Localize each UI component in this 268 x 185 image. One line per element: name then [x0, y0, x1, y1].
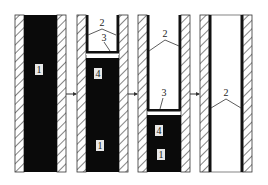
inner-wall-left: [86, 15, 89, 53]
right-wall: [243, 15, 252, 172]
label-2: 2: [163, 28, 168, 39]
label-3: 3: [162, 87, 167, 98]
interface-plug: [147, 109, 181, 112]
left-wall: [77, 15, 86, 172]
label-4: 4: [96, 68, 101, 79]
right-wall: [57, 15, 66, 172]
label-2: 2: [100, 17, 105, 28]
left-wall: [15, 15, 24, 172]
arrow-2: [128, 92, 138, 96]
arrow-1: [66, 92, 77, 96]
interface-plug: [86, 51, 119, 54]
left-wall: [200, 15, 209, 172]
fill-region: [24, 15, 57, 172]
inner-wall-right: [241, 15, 244, 172]
label-4: 4: [157, 125, 162, 136]
arrow-3: [190, 92, 200, 96]
inner-wall-right: [179, 15, 182, 111]
label-1: 1: [98, 140, 103, 151]
label-1: 1: [159, 149, 164, 160]
label-1: 1: [37, 64, 42, 75]
stage-1: 1: [15, 15, 66, 172]
process-diagram: 1 2 3 4 1 2 3: [0, 0, 268, 185]
inner-wall-left: [209, 15, 212, 172]
inner-wall-right: [117, 15, 120, 53]
inner-wall-left: [147, 15, 150, 111]
right-wall: [119, 15, 128, 172]
right-wall: [181, 15, 190, 172]
fill-region: [147, 115, 181, 172]
stage-3: 2 3 4 1: [138, 15, 190, 172]
stage-4: 2: [200, 15, 252, 172]
label-2: 2: [224, 87, 229, 98]
label-3: 3: [102, 32, 107, 43]
stage-2: 2 3 4 1: [77, 15, 128, 172]
fill-region: [86, 58, 119, 172]
left-wall: [138, 15, 147, 172]
